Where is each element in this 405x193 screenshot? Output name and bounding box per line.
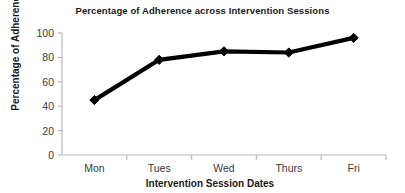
x-tick-label: Tues [148,162,171,174]
y-axis-tick-labels: 020406080100 [36,27,54,161]
x-tick-label: Wed [213,162,235,174]
data-point-marker [284,48,293,57]
y-tick-label: 40 [42,100,54,112]
x-tick-label: Mon [84,162,105,174]
y-tick-label: 60 [42,76,54,88]
chart-figure: Percentage of Adherence across Intervent… [0,0,405,193]
x-tick-label: Thurs [275,162,302,174]
y-tick-label: 0 [48,149,54,161]
x-tick-label: Fri [347,162,359,174]
y-tick-label: 80 [42,51,54,63]
data-point-marker [219,47,228,56]
data-point-marker [349,33,358,42]
x-axis-tick-marks [127,155,386,160]
plot-area: 020406080100 MonTuesWedThursFri [0,0,405,193]
y-tick-label: 20 [42,125,54,137]
x-axis-tick-labels: MonTuesWedThursFri [84,162,360,174]
y-tick-label: 100 [36,27,54,39]
